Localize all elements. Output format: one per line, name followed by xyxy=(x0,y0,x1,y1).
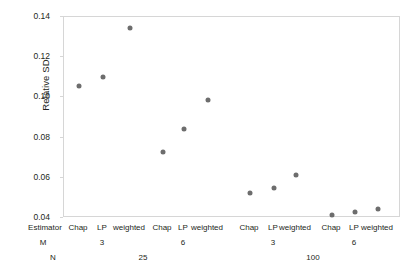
y-tick-label: 0.08 xyxy=(6,132,50,142)
x-axis-table: Estimator ChapLPweightedChapLPweightedCh… xyxy=(0,219,411,271)
x-group-label-m: 6 xyxy=(181,238,185,247)
y-tick-mark xyxy=(60,217,63,218)
x-tick-label-estimator: weighted xyxy=(279,223,311,232)
x-axis-row-estimator: Estimator ChapLPweightedChapLPweightedCh… xyxy=(0,223,411,237)
data-point xyxy=(206,98,211,103)
x-tick-label-estimator: Chap xyxy=(68,223,87,232)
y-tick-label: 0.10 xyxy=(6,91,50,101)
x-axis-row-m: M 3636 xyxy=(0,238,411,252)
data-point xyxy=(77,83,82,88)
y-tick-label: 0.14 xyxy=(6,11,50,21)
data-point xyxy=(128,25,133,30)
x-tick-label-estimator: Chap xyxy=(239,223,258,232)
data-point xyxy=(161,150,166,155)
data-point xyxy=(101,74,106,79)
x-group-label-n: 25 xyxy=(139,253,148,262)
chart-figure: Relative SD 0.140.120.100.080.060.04 Est… xyxy=(0,0,411,271)
plot-area xyxy=(64,17,399,216)
row-header-m: M xyxy=(28,238,58,247)
data-point xyxy=(330,212,335,217)
x-tick-label-estimator: LP xyxy=(349,223,359,232)
x-tick-label-estimator: weighted xyxy=(113,223,145,232)
data-point xyxy=(294,172,299,177)
y-tick-label: 0.06 xyxy=(6,172,50,182)
row-header-n: N xyxy=(38,253,68,262)
data-point xyxy=(248,191,253,196)
x-tick-label-estimator: LP xyxy=(268,223,278,232)
x-tick-label-estimator: Chap xyxy=(321,223,340,232)
x-tick-label-estimator: LP xyxy=(97,223,107,232)
data-point xyxy=(353,209,358,214)
x-tick-label-estimator: weighted xyxy=(191,223,223,232)
data-point xyxy=(272,186,277,191)
x-tick-label-estimator: Chap xyxy=(152,223,171,232)
x-group-label-m: 3 xyxy=(100,238,104,247)
x-tick-label-estimator: LP xyxy=(178,223,188,232)
x-axis-row-n: N 25100 xyxy=(0,253,411,267)
x-tick-label-estimator: weighted xyxy=(361,223,393,232)
x-group-label-m: 6 xyxy=(352,238,356,247)
x-group-label-m: 3 xyxy=(271,238,275,247)
row-header-estimator: Estimator xyxy=(22,223,68,232)
data-point xyxy=(376,206,381,211)
x-group-label-n: 100 xyxy=(306,253,319,262)
data-point xyxy=(182,126,187,131)
y-tick-label: 0.12 xyxy=(6,51,50,61)
plot-frame xyxy=(63,16,400,217)
